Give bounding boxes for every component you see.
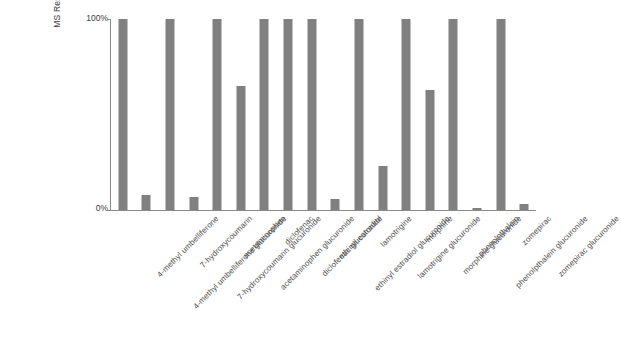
bar-slot <box>324 19 348 210</box>
bar-slot <box>276 19 300 210</box>
x-axis-tick-label: phenolpthalein <box>477 214 521 258</box>
bar-slot <box>418 19 442 210</box>
bar <box>472 208 481 210</box>
bar <box>496 19 505 210</box>
x-axis-tick-label: zomepirac glucuronide <box>556 214 621 279</box>
bar <box>213 19 222 210</box>
bar <box>166 19 175 210</box>
bar-slot <box>465 19 489 210</box>
y-tick-label-100: 100% <box>74 13 108 23</box>
plot-area <box>111 19 536 210</box>
bar <box>236 86 245 210</box>
x-axis-tick-label: 4-methyl umbelliferone <box>155 214 220 279</box>
bar <box>260 19 269 210</box>
bar-slot <box>347 19 371 210</box>
bar-slot <box>371 19 395 210</box>
y-tick-label-0: 0% <box>74 203 108 213</box>
bar-slot <box>253 19 277 210</box>
bar <box>331 199 340 210</box>
bar-slot <box>512 19 536 210</box>
y-axis-title: MS Response <box>52 0 62 60</box>
bar <box>378 166 387 210</box>
bar <box>425 90 434 210</box>
x-axis-category-labels: 4-methyl umbelliferone4-methyl umbellife… <box>111 212 536 342</box>
bar-slot <box>182 19 206 210</box>
bar <box>284 19 293 210</box>
bar <box>118 19 127 210</box>
x-axis-line <box>110 210 536 211</box>
bar-slot <box>229 19 253 210</box>
bar <box>402 19 411 210</box>
bar-slot <box>111 19 135 210</box>
bar <box>354 19 363 210</box>
bar <box>307 19 316 210</box>
bar-slot <box>394 19 418 210</box>
bar <box>189 197 198 210</box>
bar-slot <box>135 19 159 210</box>
bar <box>520 204 529 210</box>
bar-slot <box>442 19 466 210</box>
bar <box>142 195 151 210</box>
bar-slot <box>205 19 229 210</box>
x-axis-tick-label: zomepirac <box>520 214 553 247</box>
bar-slot <box>300 19 324 210</box>
bar <box>449 19 458 210</box>
bar-slot <box>158 19 182 210</box>
bar-slot <box>489 19 513 210</box>
